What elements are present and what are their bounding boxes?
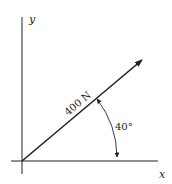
y-axis-label: y: [28, 13, 36, 26]
force-vector-arrow: [22, 60, 142, 161]
angle-arc: [97, 99, 117, 157]
force-diagram: y x 400 N 40°: [0, 0, 172, 184]
x-axis-label: x: [159, 168, 166, 181]
angle-label: 40°: [115, 121, 133, 132]
